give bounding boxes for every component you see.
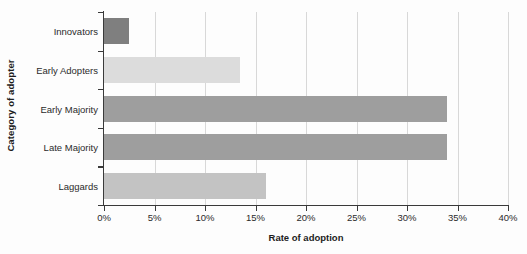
y-axis-tick-label: Late Majority: [16, 142, 98, 153]
x-axis-tick-label: 0%: [97, 212, 111, 223]
bar-early-adopters: [104, 57, 240, 83]
x-axis-tick-mark: [407, 206, 408, 211]
x-axis-tick-mark: [357, 206, 358, 211]
x-axis-tick-label: 20%: [296, 212, 315, 223]
x-axis-tick-label: 5%: [148, 212, 162, 223]
bar-innovators: [104, 18, 129, 44]
y-axis-tick-mark: [98, 51, 104, 52]
x-axis-tick-mark: [205, 206, 206, 211]
y-axis-tick-mark: [98, 12, 104, 13]
y-axis-tick-mark: [98, 166, 104, 167]
x-axis-tick-label: 40%: [498, 212, 517, 223]
x-axis-tick-label: 15%: [246, 212, 265, 223]
x-axis-tick-mark: [256, 206, 257, 211]
y-axis-tick-label: Early Adopters: [16, 64, 98, 75]
y-axis-title-text: Category of adopter: [5, 59, 16, 151]
x-axis-tick-mark: [104, 206, 105, 211]
x-axis-tick-mark: [155, 206, 156, 211]
gridline: [458, 12, 459, 205]
y-axis-tick-mark: [98, 89, 104, 90]
x-axis-tick-label: 35%: [448, 212, 467, 223]
y-axis-tick-label: Innovators: [16, 26, 98, 37]
x-axis-tick-label: 10%: [195, 212, 214, 223]
y-axis-tick-mark: [98, 128, 104, 129]
x-axis-tick-mark: [306, 206, 307, 211]
y-axis-tick-label: Early Majority: [16, 103, 98, 114]
plot-area: [104, 12, 508, 205]
bar-chart: Category of adopter InnovatorsEarly Adop…: [0, 0, 527, 254]
x-axis-tick-label: 30%: [397, 212, 416, 223]
bar-late-majority: [104, 134, 447, 160]
x-axis-tick-label: 25%: [347, 212, 366, 223]
bar-early-majority: [104, 96, 447, 122]
x-axis-tick-mark: [508, 206, 509, 211]
y-axis-tick-label: Laggards: [16, 180, 98, 191]
bar-laggards: [104, 173, 266, 199]
gridline: [508, 12, 509, 205]
x-axis-tick-mark: [458, 206, 459, 211]
y-axis-tick-labels: InnovatorsEarly AdoptersEarly MajorityLa…: [18, 12, 102, 205]
x-axis-title: Rate of adoption: [104, 232, 508, 243]
